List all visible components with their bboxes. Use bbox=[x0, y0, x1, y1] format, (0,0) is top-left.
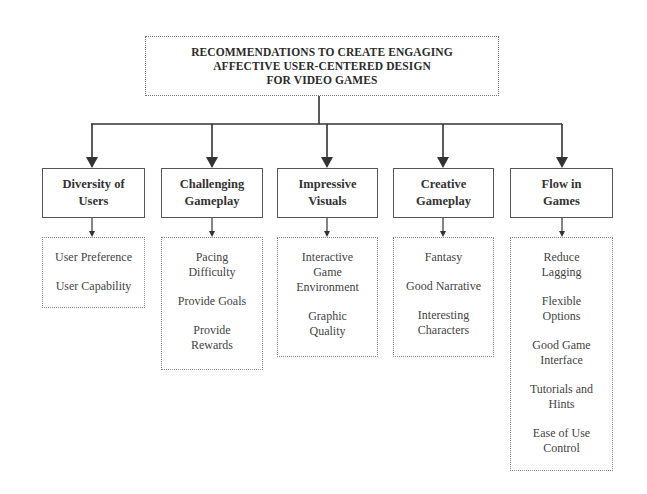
subitem: Fantasy bbox=[425, 250, 462, 265]
title-line-2: AFFECTIVE USER-CENTERED DESIGN bbox=[213, 59, 431, 73]
category-label: Gameplay bbox=[416, 193, 471, 210]
subitem-text: Interface bbox=[532, 353, 590, 368]
subitem: Interactive Game Environment bbox=[296, 250, 359, 295]
subitem-text: Fantasy bbox=[425, 250, 462, 265]
category-label: Impressive bbox=[298, 176, 356, 193]
subitem: User Preference bbox=[55, 250, 132, 265]
subitem-text: Rewards bbox=[191, 338, 233, 353]
title-box: RECOMMENDATIONS TO CREATE ENGAGING AFFEC… bbox=[145, 36, 499, 96]
subitem-text: Graphic bbox=[308, 309, 347, 324]
subitem-text: Game bbox=[296, 265, 359, 280]
subitems-impressive-visuals: Interactive Game Environment Graphic Qua… bbox=[277, 237, 378, 357]
category-label: Users bbox=[79, 193, 109, 210]
category-label: Games bbox=[543, 193, 580, 210]
subitem-text: Good Game bbox=[532, 338, 590, 353]
subitem: Ease of Use Control bbox=[533, 426, 590, 456]
category-creative-gameplay: Creative Gameplay bbox=[393, 168, 494, 218]
subitem-text: User Preference bbox=[55, 250, 132, 265]
title-line-1: RECOMMENDATIONS TO CREATE ENGAGING bbox=[191, 45, 453, 59]
subitems-creative-gameplay: Fantasy Good Narrative Interesting Chara… bbox=[393, 237, 494, 357]
subitem-text: Hints bbox=[530, 397, 593, 412]
subitem-text: Good Narrative bbox=[406, 279, 481, 294]
subitem: Good Narrative bbox=[406, 279, 481, 294]
category-challenging-gameplay: Challenging Gameplay bbox=[161, 168, 263, 218]
title-line-3: FOR VIDEO GAMES bbox=[266, 73, 377, 87]
subitem: User Capability bbox=[56, 279, 132, 294]
category-diversity-of-users: Diversity of Users bbox=[42, 168, 145, 218]
category-label: Visuals bbox=[308, 193, 346, 210]
subitem: Provide Goals bbox=[178, 294, 246, 309]
subitem-text: Tutorials and bbox=[530, 382, 593, 397]
category-flow-in-games: Flow in Games bbox=[510, 168, 613, 218]
subitem-text: Flexible bbox=[542, 294, 581, 309]
subitem-text: Difficulty bbox=[188, 265, 235, 280]
subitem-text: Provide Goals bbox=[178, 294, 246, 309]
subitem: Graphic Quality bbox=[308, 309, 347, 339]
subitem: Reduce Lagging bbox=[542, 250, 582, 280]
subitem-text: Environment bbox=[296, 280, 359, 295]
category-label: Diversity of bbox=[62, 176, 124, 193]
subitem-text: Interactive bbox=[296, 250, 359, 265]
subitem: Good Game Interface bbox=[532, 338, 590, 368]
category-label: Flow in bbox=[542, 176, 582, 193]
subitem-text: User Capability bbox=[56, 279, 132, 294]
subitem-text: Ease of Use bbox=[533, 426, 590, 441]
category-label: Challenging bbox=[180, 176, 245, 193]
category-label: Gameplay bbox=[185, 193, 240, 210]
subitem: Pacing Difficulty bbox=[188, 250, 235, 280]
category-impressive-visuals: Impressive Visuals bbox=[277, 168, 378, 218]
subitem-text: Interesting bbox=[418, 308, 469, 323]
subitems-flow-in-games: Reduce Lagging Flexible Options Good Gam… bbox=[510, 237, 613, 471]
subitem-text: Characters bbox=[418, 323, 469, 338]
subitem: Tutorials and Hints bbox=[530, 382, 593, 412]
subitem: Provide Rewards bbox=[191, 323, 233, 353]
subitems-diversity-of-users: User Preference User Capability bbox=[42, 237, 145, 308]
subitem: Flexible Options bbox=[542, 294, 581, 324]
subitem-text: Options bbox=[542, 309, 581, 324]
subitem-text: Pacing bbox=[188, 250, 235, 265]
category-label: Creative bbox=[421, 176, 467, 193]
subitem-text: Lagging bbox=[542, 265, 582, 280]
subitem-text: Provide bbox=[191, 323, 233, 338]
subitems-challenging-gameplay: Pacing Difficulty Provide Goals Provide … bbox=[161, 237, 263, 370]
subitem-text: Quality bbox=[308, 324, 347, 339]
subitem-text: Reduce bbox=[542, 250, 582, 265]
subitem: Interesting Characters bbox=[418, 308, 469, 338]
subitem-text: Control bbox=[533, 441, 590, 456]
